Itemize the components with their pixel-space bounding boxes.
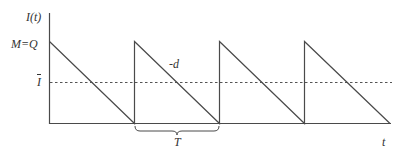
y-axis-label: I(t) — [26, 11, 41, 23]
peak-label: M=Q — [11, 38, 38, 50]
average-inventory-label: I — [37, 76, 41, 88]
inventory-sawtooth-diagram — [0, 0, 400, 152]
x-axis-label: t — [382, 136, 385, 148]
period-brace — [135, 126, 219, 135]
period-label: T — [174, 136, 181, 148]
slope-label: -d — [169, 58, 179, 70]
